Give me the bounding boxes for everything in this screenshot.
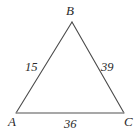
side-length-label-ac: 36: [64, 118, 77, 131]
vertex-label-b: B: [66, 4, 74, 17]
triangle-side-bc: [72, 22, 124, 113]
side-length-label-ab: 15: [25, 61, 38, 74]
triangle-figure: B A C 15 39 36: [0, 0, 140, 136]
triangle-svg: [0, 0, 140, 136]
vertex-label-a: A: [8, 115, 16, 128]
vertex-label-c: C: [124, 115, 133, 128]
side-length-label-bc: 39: [101, 61, 114, 74]
